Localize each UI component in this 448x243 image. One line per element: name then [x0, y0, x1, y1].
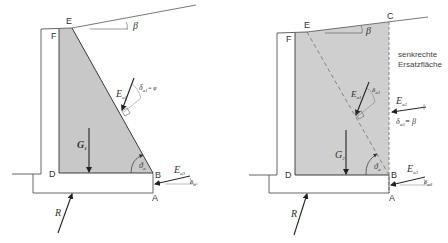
force-r-label-right: R — [290, 208, 297, 219]
point-d-right: D — [285, 170, 292, 180]
point-e: E — [66, 16, 72, 26]
note-senkrechte: senkrechte — [398, 50, 438, 59]
force-ea1-label: Ea1 — [115, 88, 127, 100]
note-ersatzflaeche: Ersatzfläche — [398, 60, 443, 69]
soil-wedge-left — [59, 28, 153, 173]
point-a-right: A — [389, 193, 395, 203]
force-ea2-label: Ea2 — [395, 95, 408, 107]
right-panel: β E F C D B A senkrechte Ersatzfläche Ea… — [249, 11, 443, 235]
point-a: A — [152, 193, 158, 203]
point-b-right: B — [391, 170, 397, 180]
point-e-right: E — [304, 20, 310, 30]
delta-a3-label-right: δa3 — [424, 178, 433, 187]
force-ea3-label: Ea3 — [173, 164, 186, 176]
delta-a2-label: δa2= β — [396, 117, 416, 127]
force-r-label: R — [54, 207, 61, 218]
delta-a3-label: δa — [190, 178, 196, 187]
left-panel: β E F D B A Ea1 δa1= φ ϑa G1 Ea3 δa R — [12, 5, 198, 233]
force-ea2-arrow — [392, 107, 426, 112]
point-b: B — [155, 170, 161, 180]
beta-label: β — [132, 20, 138, 31]
force-ea3-label-right: Ea3 — [406, 163, 419, 175]
point-f: F — [51, 31, 57, 41]
point-d: D — [49, 169, 56, 179]
point-f-right: F — [286, 34, 292, 44]
delta-a1-label: δa1= φ — [139, 83, 157, 93]
point-c-right: C — [387, 11, 394, 21]
retaining-wall-diagram: β E F D B A Ea1 δa1= φ ϑa G1 Ea3 δa R — [0, 0, 448, 243]
beta-label-right: β — [365, 25, 371, 36]
